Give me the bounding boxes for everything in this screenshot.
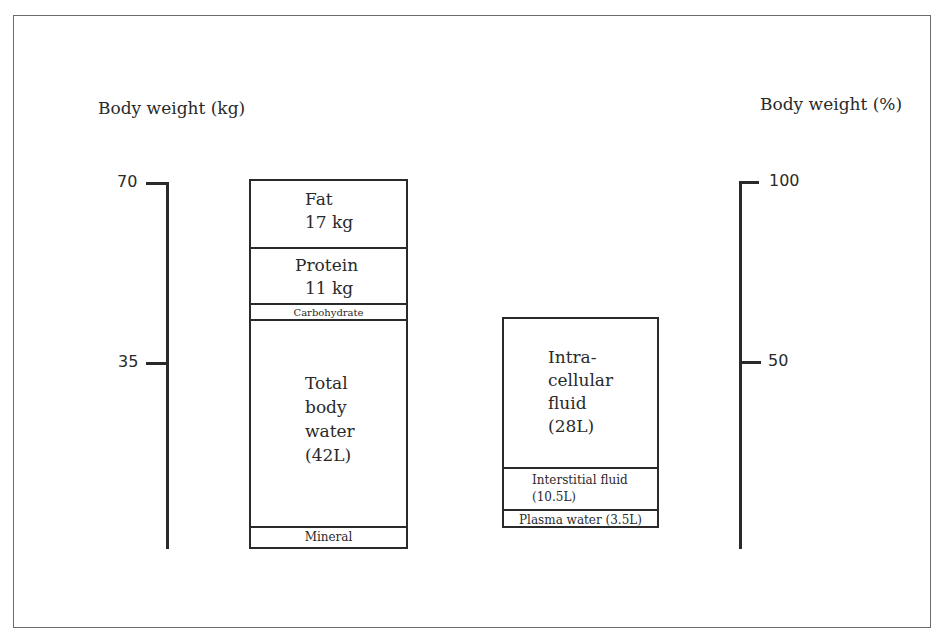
left-axis-tick-label-35: 35 (118, 352, 138, 371)
intracellular-line1: Intra- (548, 347, 597, 367)
left-axis-line (166, 182, 169, 549)
left-axis-tick-label-70: 70 (117, 172, 137, 191)
mineral-segment: Mineral (251, 526, 406, 546)
total-body-water-line1: Total (305, 373, 348, 393)
intracellular-line3: fluid (548, 393, 587, 413)
interstitial-value: (10.5L) (532, 490, 576, 504)
mineral-label: Mineral (251, 530, 406, 544)
fat-label: Fat (305, 189, 333, 209)
fat-segment: Fat 17 kg (251, 181, 406, 249)
fat-value: 17 kg (305, 212, 353, 232)
intracellular-line2: cellular (548, 370, 613, 390)
carbohydrate-label: Carbohydrate (251, 307, 406, 319)
total-body-water-line3: water (305, 421, 355, 441)
protein-segment: Protein 11 kg (251, 247, 406, 305)
left-axis-title: Body weight (kg) (98, 98, 245, 118)
right-axis-tick-50 (739, 361, 761, 364)
protein-label: Protein (295, 255, 358, 275)
body-composition-column: Fat 17 kg Protein 11 kg Carbohydrate Tot… (249, 179, 408, 549)
left-axis-tick-35 (146, 362, 169, 365)
right-axis-tick-label-50: 50 (768, 351, 788, 370)
right-axis-tick-label-100: 100 (769, 171, 800, 190)
body-water-column: Intra- cellular fluid (28L) Interstitial… (502, 317, 659, 528)
intracellular-fluid-segment: Intra- cellular fluid (28L) (504, 319, 657, 469)
intracellular-value: (28L) (548, 416, 594, 436)
plasma-water-label: Plasma water (3.5L) (504, 513, 657, 527)
right-axis-tick-100 (739, 181, 759, 184)
total-body-water-value: (42L) (305, 445, 351, 465)
interstitial-label: Interstitial fluid (532, 473, 628, 487)
right-axis-title: Body weight (%) (760, 94, 902, 114)
left-axis-tick-70 (146, 182, 169, 185)
protein-value: 11 kg (305, 278, 353, 298)
plasma-water-segment: Plasma water (3.5L) (504, 509, 657, 528)
total-body-water-line2: body (305, 397, 347, 417)
interstitial-fluid-segment: Interstitial fluid (10.5L) (504, 467, 657, 511)
total-body-water-segment: Total body water (42L) (251, 319, 406, 528)
right-axis-line (739, 181, 742, 549)
